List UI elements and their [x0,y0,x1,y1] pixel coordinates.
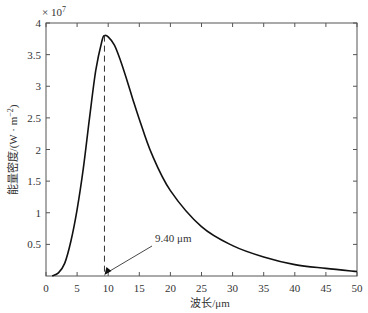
plot-frame [46,23,357,276]
y-tick-label: 1.5 [27,175,41,187]
y-tick-label: 2.5 [27,112,41,124]
x-tick-label: 15 [134,282,146,294]
peak-annotation [104,36,152,276]
y-tick-label: 4 [36,17,42,29]
x-tick-label: 50 [352,282,364,294]
chart: 051015202530354045500.511.522.533.54 × 1… [0,0,368,313]
x-tick-label: 30 [227,282,239,294]
x-tick-label: 35 [258,282,270,294]
arrow-line [106,246,152,273]
x-tick-label: 20 [165,282,177,294]
y-multiplier: × 107 [42,5,66,18]
y-tick-label: 0.5 [27,238,41,250]
x-axis-label: 波长/μm [190,297,230,309]
peak-label: 9.40 μm [155,232,192,244]
y-tick-label: 3.5 [27,49,41,61]
y-tick-label: 1 [36,207,42,219]
x-tick-label: 45 [320,282,332,294]
x-tick-label: 0 [43,282,49,294]
axis-ticks: 051015202530354045500.511.522.533.54 [27,17,363,294]
x-tick-label: 10 [103,282,115,294]
x-tick-label: 5 [74,282,80,294]
y-axis-label: 能量密度/(W · m−2) [6,104,20,195]
data-curve [52,35,357,276]
y-tick-label: 3 [36,80,42,92]
x-tick-label: 25 [196,282,208,294]
x-tick-label: 40 [289,282,301,294]
y-tick-label: 2 [36,144,42,156]
